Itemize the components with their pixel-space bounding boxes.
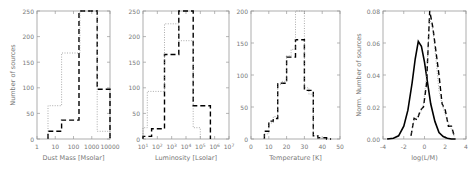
series-dashed (48, 11, 110, 139)
x-tick-label: 103 (166, 143, 177, 151)
x-tick-label: 107 (224, 143, 235, 151)
x-tick-label: 105 (195, 143, 206, 151)
series-dotted (143, 24, 200, 139)
x-tick-label: 1000 (84, 143, 99, 150)
y-tick-label: 0 (136, 136, 140, 143)
x-axis-label: Luminosity [Lsolar] (155, 154, 217, 162)
x-tick-label: 101 (138, 143, 149, 151)
series-dotted (264, 11, 322, 139)
y-tick-label: 0 (244, 136, 248, 143)
x-tick-label: -2 (401, 143, 407, 150)
series-dashed (143, 11, 210, 139)
y-tick-label: 150 (129, 59, 141, 66)
y-tick-label: 50 (26, 110, 34, 117)
x-tick-label: 20 (283, 143, 291, 150)
x-axis-label: log(L/M) (411, 154, 437, 162)
plot-frame (251, 11, 340, 139)
series-dotted-histogram (411, 19, 455, 137)
y-tick-label: 100 (237, 72, 249, 79)
y-tick-label: 200 (129, 33, 141, 40)
y-tick-label: 0 (30, 136, 34, 143)
x-axis-label: Dust Mass [Msolar] (42, 154, 104, 162)
y-tick-label: 250 (129, 8, 141, 15)
x-tick-label: 10 (51, 143, 59, 150)
x-axis-label: Temperature [K] (268, 154, 322, 162)
x-tick-label: 4 (464, 143, 468, 150)
y-tick-label: 100 (129, 84, 141, 91)
y-tick-label: 150 (237, 40, 249, 47)
y-tick-label: 200 (237, 8, 249, 15)
y-axis-label: Norm. Number of sources (355, 33, 363, 117)
y-tick-label: 250 (23, 8, 35, 15)
panel-temperature: 05010015020001020304050Temperature [K] (237, 8, 344, 163)
x-tick-label: 1 (35, 143, 39, 150)
y-tick-label: 0.08 (367, 8, 381, 15)
y-tick-label: 0.06 (367, 40, 381, 47)
x-tick-label: 102 (152, 143, 163, 151)
x-tick-label: -4 (380, 143, 386, 150)
y-axis-label: Number of sources (9, 44, 17, 106)
panel-dust-mass: 050100150200250110100100010000Dust Mass … (9, 8, 120, 163)
panel-luminosity: 050100150200250101102103104105106107Lumi… (129, 8, 235, 163)
x-tick-label: 40 (318, 143, 326, 150)
y-tick-label: 150 (23, 59, 35, 66)
panel-log-l-over-m: 0.000.020.040.060.08-4-2024log(L/M)Norm.… (355, 8, 468, 163)
plot-frame (383, 11, 466, 139)
y-tick-label: 0.04 (367, 72, 381, 79)
x-tick-label: 2 (443, 143, 447, 150)
x-tick-label: 0 (249, 143, 253, 150)
x-tick-label: 10 (265, 143, 273, 150)
x-tick-label: 0 (423, 143, 427, 150)
y-tick-label: 50 (132, 110, 140, 117)
x-tick-label: 106 (209, 143, 220, 151)
plot-frame (143, 11, 229, 139)
series-dashed-histogram (411, 11, 455, 137)
y-tick-label: 200 (23, 33, 35, 40)
x-tick-label: 50 (336, 143, 344, 150)
y-tick-label: 0.00 (367, 136, 381, 143)
figure: 050100150200250110100100010000Dust Mass … (0, 0, 475, 169)
y-tick-label: 100 (23, 84, 35, 91)
x-tick-label: 104 (181, 143, 192, 151)
x-tick-label: 100 (68, 143, 80, 150)
x-tick-label: 30 (301, 143, 309, 150)
y-tick-label: 0.02 (367, 104, 381, 111)
series-solid-gaussian (387, 41, 456, 139)
x-tick-label: 10000 (100, 143, 119, 150)
y-tick-label: 50 (240, 104, 248, 111)
series-dashed (264, 40, 331, 139)
